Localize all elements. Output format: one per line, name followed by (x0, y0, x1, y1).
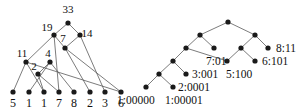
leaf-weight-label: 1 (41, 96, 47, 110)
internal-node-weight-label: 4 (45, 47, 51, 59)
code-label: 5:100 (226, 68, 252, 80)
code-label: 3:001 (192, 68, 218, 80)
tree-node (170, 58, 175, 63)
graph-edge (80, 35, 105, 92)
tree-node (183, 71, 188, 76)
internal-node-weight-label: 2 (31, 60, 37, 72)
code-label: 1:00000 (117, 94, 155, 106)
tree-edge (186, 35, 200, 48)
left-graph-edges (13, 23, 121, 92)
tree-node (265, 45, 270, 50)
internal-node-weight-label: 33 (63, 3, 75, 15)
figure-container: 3319147114251178236 8:116:1017:013:0015:… (0, 0, 305, 110)
leaf-node (87, 89, 92, 94)
code-label: 2:0001 (178, 81, 210, 93)
tree-node (252, 32, 257, 37)
internal-node (35, 71, 40, 76)
tree-edge (200, 35, 214, 48)
code-label: 1:00001 (165, 94, 203, 106)
graph-edge (65, 48, 121, 92)
tree-edge (173, 48, 186, 61)
internal-node-weight-label: 14 (82, 27, 94, 39)
tree-edge (241, 48, 255, 61)
internal-node-weight-label: 7 (60, 32, 66, 44)
tree-node (170, 84, 175, 89)
tree-edge (241, 35, 255, 48)
graph-edge (13, 62, 26, 92)
leaf-weight-label: 2 (87, 96, 93, 110)
internal-node (65, 20, 70, 25)
left-graph-labels: 3319147114251178236 (10, 3, 124, 110)
right-graph-labels: 8:116:1017:013:0015:1002:00011:000001:00… (117, 42, 296, 106)
internal-node (62, 45, 67, 50)
leaf-weight-label: 7 (56, 96, 62, 110)
internal-node-weight-label: 11 (17, 47, 28, 59)
leaf-node (26, 89, 31, 94)
leaf-node (102, 89, 107, 94)
tree-node (183, 45, 188, 50)
tree-edge (227, 48, 241, 61)
tree-edge (255, 35, 268, 48)
internal-node-weight-label: 19 (42, 21, 54, 33)
tree-node (225, 19, 230, 24)
leaf-node (56, 89, 61, 94)
graph-edge (26, 62, 121, 92)
tree-node (143, 84, 148, 89)
leaf-node (10, 89, 15, 94)
tree-node (252, 58, 257, 63)
tree-edge (146, 74, 159, 87)
leaf-node (71, 89, 76, 94)
graph-edge (54, 35, 59, 92)
leaf-weight-label: 3 (102, 96, 108, 110)
tree-node (238, 45, 243, 50)
tree-edge (228, 22, 255, 35)
graph-edge (65, 35, 80, 48)
leaf-weight-label: 8 (71, 96, 77, 110)
tree-node (211, 45, 216, 50)
tree-edge (173, 61, 186, 74)
tree-edge (200, 22, 228, 35)
internal-node (23, 59, 28, 64)
tree-edge (159, 74, 173, 87)
code-label: 7:01 (206, 55, 227, 67)
tree-node (197, 32, 202, 37)
tree-edge (159, 61, 173, 74)
internal-node (51, 32, 56, 37)
internal-node (47, 59, 52, 64)
code-label: 8:11 (276, 42, 296, 54)
leaf-weight-label: 1 (26, 96, 32, 110)
tree-node (156, 71, 161, 76)
code-label: 6:101 (262, 55, 288, 67)
leaf-weight-label: 5 (10, 96, 16, 110)
leaf-node (41, 89, 46, 94)
diagram-canvas: 3319147114251178236 8:116:1017:013:0015:… (0, 0, 305, 110)
